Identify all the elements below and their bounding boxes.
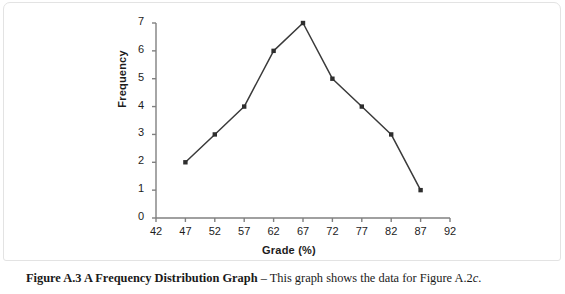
caption-body: This graph shows the data for Figure A.2: [270, 271, 473, 285]
data-point-marker: [301, 21, 305, 25]
data-markers: [183, 21, 423, 193]
x-tick-label: 82: [376, 225, 406, 237]
y-tick-label: 1: [122, 182, 144, 194]
data-point-marker: [418, 188, 422, 192]
y-tick-label: 3: [122, 126, 144, 138]
data-point-marker: [389, 132, 393, 136]
x-tick-label: 57: [229, 225, 259, 237]
x-tick-label: 77: [347, 225, 377, 237]
y-tick-label: 2: [122, 154, 144, 166]
x-tick-label: 52: [200, 225, 230, 237]
y-tick-label: 0: [122, 210, 144, 222]
x-tick-label: 67: [288, 225, 318, 237]
caption-period: .: [478, 271, 481, 285]
x-tick-label: 47: [170, 225, 200, 237]
figure-card: Frequency Grade (%) 01234567 42475257626…: [3, 2, 561, 261]
caption-dash: –: [258, 271, 270, 285]
data-point-marker: [213, 132, 217, 136]
x-tick-label: 62: [259, 225, 289, 237]
y-tick-label: 4: [122, 99, 144, 111]
data-point-marker: [271, 49, 275, 53]
data-point-marker: [242, 104, 246, 108]
x-tick-label: 42: [141, 225, 171, 237]
y-tick-label: 5: [122, 71, 144, 83]
data-line: [185, 23, 420, 190]
data-point-marker: [360, 104, 364, 108]
figure-caption: Figure A.3 A Frequency Distribution Grap…: [26, 271, 546, 286]
x-axis-title: Grade (%): [154, 244, 424, 256]
x-tick-label: 87: [406, 225, 436, 237]
data-point-marker: [183, 160, 187, 164]
frequency-distribution-chart: Frequency Grade (%) 01234567 42475257626…: [4, 3, 562, 262]
data-point-marker: [330, 77, 334, 81]
chart-svg: [4, 3, 562, 262]
x-tick-label: 72: [317, 225, 347, 237]
y-tick-label: 6: [122, 43, 144, 55]
caption-title: Figure A.3 A Frequency Distribution Grap…: [26, 271, 258, 285]
x-tick-label: 92: [435, 225, 465, 237]
y-tick-label: 7: [122, 15, 144, 27]
